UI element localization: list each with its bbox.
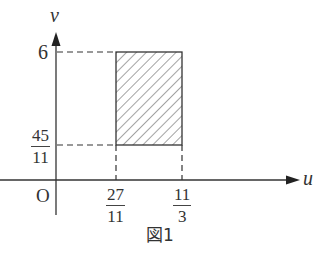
y-tick-45-11: 45 11	[31, 127, 50, 166]
hatched-region	[116, 52, 182, 145]
origin-label: O	[36, 186, 50, 205]
x-tick-11-3: 11 3	[173, 186, 191, 225]
y-tick-6: 6	[38, 42, 48, 62]
u-axis-label: u	[303, 168, 313, 188]
x-tick-27-11: 27 11	[106, 186, 125, 225]
v-axis-arrow-icon	[52, 32, 61, 46]
figure-caption: 図1	[146, 227, 174, 244]
u-axis-arrow-icon	[286, 176, 300, 185]
v-axis-label: v	[50, 5, 59, 25]
